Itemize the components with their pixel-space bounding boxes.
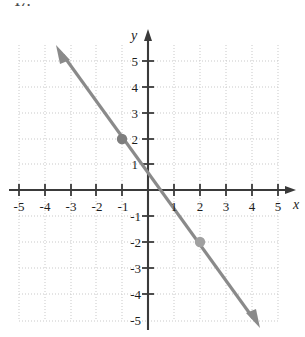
coordinate-plane-plot: y x -5 -4 -3 -2 -1 1 2 3 4 5 5 4 3 2 1 -…	[0, 0, 305, 337]
line-segment	[63, 55, 253, 318]
y-tick-label--5: -5	[130, 313, 141, 328]
x-axis-arrow-icon	[285, 186, 296, 194]
graph-figure: 17.	[0, 0, 305, 337]
y-tick-label--4: -4	[130, 287, 141, 302]
x-tick-label-3: 3	[223, 199, 230, 214]
y-tick-label--2: -2	[130, 235, 141, 250]
x-tick-label--5: -5	[14, 199, 25, 214]
x-tick-label-4: 4	[249, 199, 256, 214]
x-tick-label--1: -1	[118, 199, 129, 214]
plotted-point-2	[195, 237, 205, 247]
x-axis-label: x	[292, 197, 300, 212]
y-tick-label-3: 3	[132, 106, 139, 121]
x-tick-label--3: -3	[66, 199, 77, 214]
x-tick-label--4: -4	[40, 199, 51, 214]
y-axis-label: y	[129, 28, 138, 43]
x-tick-label-1: 1	[171, 199, 178, 214]
y-tick-label-4: 4	[132, 80, 139, 95]
y-tick-label-1: 1	[132, 157, 139, 172]
x-tick-label-5: 5	[275, 199, 282, 214]
plotted-point-1	[117, 134, 127, 144]
y-tick-label--3: -3	[130, 261, 141, 276]
x-tick-label--2: -2	[92, 199, 103, 214]
y-axis-arrow-icon	[144, 29, 152, 41]
y-tick-label--1: -1	[130, 209, 141, 224]
y-tick-label-5: 5	[132, 54, 139, 69]
y-tick-label-2: 2	[132, 132, 139, 147]
x-tick-label-2: 2	[197, 199, 204, 214]
